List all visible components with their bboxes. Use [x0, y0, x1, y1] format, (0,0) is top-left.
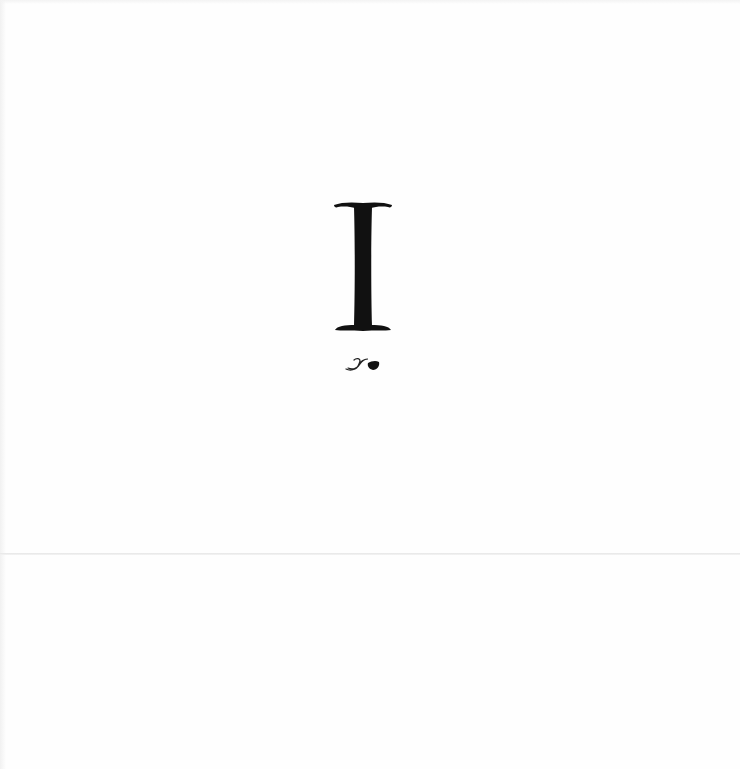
- roman-numeral-one-glyph: [333, 200, 393, 333]
- fleuron-icon: [344, 356, 382, 372]
- page-edge-shadow-left: [0, 0, 6, 769]
- fleuron-glyph: [344, 356, 382, 372]
- book-page: I: [0, 0, 740, 769]
- chapter-numeral: I: [333, 200, 393, 333]
- page-fold-line: [0, 553, 740, 555]
- page-edge-shadow-top: [0, 0, 740, 4]
